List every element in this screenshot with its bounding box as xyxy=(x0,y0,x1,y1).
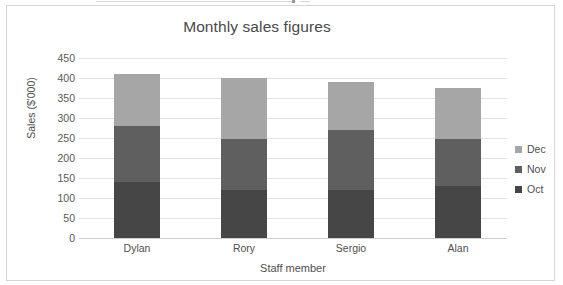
y-axis-title: Sales ($'000) xyxy=(25,38,37,178)
scan-speck xyxy=(292,0,295,3)
chart-title: Monthly sales figures xyxy=(7,18,507,36)
scan-smudge xyxy=(300,1,310,2)
legend-swatch-dec-icon xyxy=(515,146,522,153)
x-axis-tick-label-alan: Alan xyxy=(413,242,503,254)
bar-segment-alan-oct[interactable] xyxy=(435,186,481,238)
legend-label: Dec xyxy=(527,143,546,155)
scan-smudge xyxy=(96,1,296,2)
bar-segment-dylan-dec[interactable] xyxy=(114,74,160,126)
bar-segment-sergio-nov[interactable] xyxy=(328,130,374,190)
bar-stack-sergio[interactable] xyxy=(328,82,374,238)
x-axis-tick-label-rory: Rory xyxy=(199,242,289,254)
x-axis-tick-label-sergio: Sergio xyxy=(306,242,396,254)
legend-swatch-nov-icon xyxy=(515,166,522,173)
legend-swatch-oct-icon xyxy=(515,186,522,193)
legend-label: Nov xyxy=(527,163,546,175)
bar-segment-dylan-oct[interactable] xyxy=(114,182,160,238)
bar-segment-alan-nov[interactable] xyxy=(435,139,481,186)
legend-item-dec[interactable]: Dec xyxy=(515,139,546,159)
y-axis-tick-label: 100 xyxy=(17,192,75,204)
bar-segment-rory-nov[interactable] xyxy=(221,139,267,190)
bar-segment-alan-dec[interactable] xyxy=(435,88,481,139)
bar-segment-rory-oct[interactable] xyxy=(221,190,267,238)
legend-item-nov[interactable]: Nov xyxy=(515,159,546,179)
x-axis-tick-label-dylan: Dylan xyxy=(92,242,182,254)
plot-area xyxy=(79,58,507,238)
x-axis-title: Staff member xyxy=(79,262,507,274)
chart-legend: DecNovOct xyxy=(515,139,546,199)
legend-label: Oct xyxy=(527,183,543,195)
y-axis-tick-label: 50 xyxy=(17,212,75,224)
y-axis-tick-label: 0 xyxy=(17,232,75,244)
bar-segment-rory-dec[interactable] xyxy=(221,78,267,139)
x-axis-line xyxy=(79,238,507,239)
bar-stack-rory[interactable] xyxy=(221,78,267,238)
bar-stack-dylan[interactable] xyxy=(114,74,160,238)
bar-segment-dylan-nov[interactable] xyxy=(114,126,160,182)
legend-item-oct[interactable]: Oct xyxy=(515,179,546,199)
chart-frame: Monthly sales figures 050100150200250300… xyxy=(6,5,555,281)
bar-segment-sergio-dec[interactable] xyxy=(328,82,374,130)
bar-segment-sergio-oct[interactable] xyxy=(328,190,374,238)
gridline xyxy=(79,58,507,59)
y-axis-tick-labels: 050100150200250300350400450 xyxy=(13,58,75,238)
bar-stack-alan[interactable] xyxy=(435,88,481,238)
